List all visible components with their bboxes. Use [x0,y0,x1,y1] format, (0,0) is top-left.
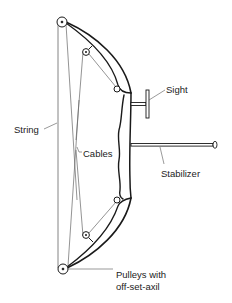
label-pulleys-line1: Pulleys with [116,269,166,280]
sight [131,90,149,118]
label-cables: Cables [83,148,113,159]
lower-riser-pulley-icon [114,197,120,203]
label-pulleys-line2: off-set-axil [116,281,160,292]
pulleys [57,17,120,274]
compound-bow-diagram: Sight String Cables Stabilizer Pulleys w… [0,0,232,303]
label-stabilizer: Stabilizer [161,168,200,179]
stabilizer [131,141,217,148]
upper-riser-pulley-icon [114,86,120,92]
label-string: String [14,124,39,135]
label-sight: Sight [166,84,188,95]
cables [66,24,116,266]
